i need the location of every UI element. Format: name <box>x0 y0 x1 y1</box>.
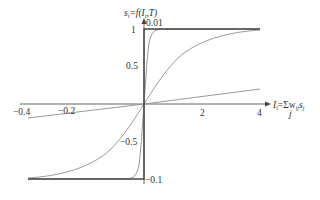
y-tick-0-5: 0.5 <box>126 61 138 71</box>
y-tick-neg-0-5: −0.5 <box>120 137 137 147</box>
y-tick-1: 1 <box>131 25 136 35</box>
annotation-label: 0.01 <box>146 18 163 28</box>
x-axis-arrow-icon <box>265 102 271 107</box>
y-tick-neg-0-1: −0.1 <box>145 175 162 185</box>
x-tick-2: 2 <box>200 108 205 118</box>
activation-chart: si=f(Ii,T) 0.01 1 0.5 −0.5 −0.1 −0.4 −0.… <box>0 0 320 200</box>
x-tick-neg-0-4: −0.4 <box>13 107 30 117</box>
x-axis-sum-index: j <box>287 109 292 119</box>
x-tick-neg-0-2: −0.2 <box>58 106 75 116</box>
x-tick-4: 4 <box>257 108 262 118</box>
